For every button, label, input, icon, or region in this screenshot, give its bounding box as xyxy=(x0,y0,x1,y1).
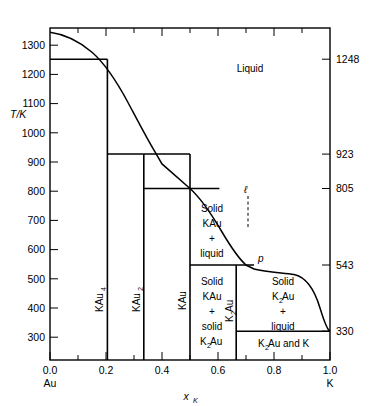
svg-text:KAu: KAu xyxy=(177,291,188,310)
svg-text:K: K xyxy=(272,291,279,302)
right-tick-543: 543 xyxy=(336,259,354,271)
right-tick-330: 330 xyxy=(336,325,354,337)
phase-diagram-figure: 1300 1200 1100 1000 900 800 700 600 500 … xyxy=(0,0,382,406)
svg-text:K: K xyxy=(224,315,235,322)
right-tick-923: 923 xyxy=(336,148,354,160)
svg-text:KAu: KAu xyxy=(94,293,105,312)
left-tick-900: 900 xyxy=(27,156,45,168)
svg-text:Solid: Solid xyxy=(201,276,223,287)
x-tick-1.0: 1.0 xyxy=(323,364,338,376)
x-axis-title-main: x xyxy=(182,390,189,402)
left-tick-600: 600 xyxy=(27,243,45,255)
region-label-liquid: Liquid xyxy=(237,63,264,74)
svg-text:+: + xyxy=(209,233,215,244)
left-tick-1200: 1200 xyxy=(22,68,46,80)
svg-text:KAu: KAu xyxy=(203,291,222,302)
x-tick-0.2: 0.2 xyxy=(99,364,114,376)
y-axis-title: T/K xyxy=(10,108,27,120)
x-tick-0.4: 0.4 xyxy=(155,364,170,376)
svg-text:liquid: liquid xyxy=(271,321,294,332)
svg-text:solid: solid xyxy=(202,321,223,332)
svg-text:K: K xyxy=(258,338,265,349)
left-tick-1000: 1000 xyxy=(22,127,46,139)
svg-text:Au: Au xyxy=(224,300,235,312)
svg-text:2: 2 xyxy=(136,287,145,291)
x-axis-right-endpoint-k: K xyxy=(326,377,333,389)
x-tick-0.0: 0.0 xyxy=(43,364,58,376)
svg-text:Au and K: Au and K xyxy=(268,338,309,349)
svg-text:+: + xyxy=(280,306,286,317)
figure-background xyxy=(0,0,382,406)
svg-text:K: K xyxy=(200,336,207,347)
left-tick-700: 700 xyxy=(27,214,45,226)
left-tick-800: 800 xyxy=(27,185,45,197)
svg-text:Au: Au xyxy=(210,336,222,347)
svg-text:Au: Au xyxy=(282,291,294,302)
svg-text:4: 4 xyxy=(99,287,108,291)
x-tick-0.8: 0.8 xyxy=(267,364,282,376)
svg-text:+: + xyxy=(209,306,215,317)
left-tick-1300: 1300 xyxy=(22,39,46,51)
svg-text:liquid: liquid xyxy=(200,248,223,259)
right-tick-1248: 1248 xyxy=(336,53,360,65)
svg-text:Solid: Solid xyxy=(272,276,294,287)
svg-text:KAu: KAu xyxy=(203,218,222,229)
x-tick-0.6: 0.6 xyxy=(211,364,226,376)
left-tick-300: 300 xyxy=(27,331,45,343)
left-tick-500: 500 xyxy=(27,273,45,285)
x-axis-left-endpoint-au: Au xyxy=(44,377,57,389)
left-tick-400: 400 xyxy=(27,302,45,314)
right-tick-805: 805 xyxy=(336,182,354,194)
svg-text:Solid: Solid xyxy=(201,203,223,214)
svg-text:KAu: KAu xyxy=(131,293,142,312)
marker-label-p: p xyxy=(257,253,264,264)
compound-label-kau: KAu xyxy=(177,291,188,310)
